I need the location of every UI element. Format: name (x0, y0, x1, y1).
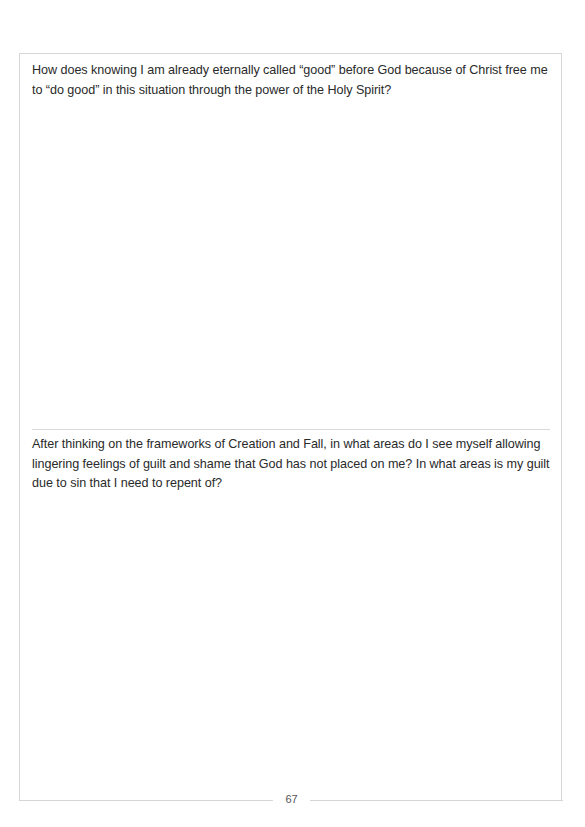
frame-bottom-right-line (310, 800, 563, 801)
frame-bottom-left-line (19, 800, 273, 801)
journal-prompt-1: How does knowing I am already eternally … (32, 61, 552, 100)
journal-prompt-2: After thinking on the frameworks of Crea… (32, 435, 552, 494)
answer-area-1[interactable] (32, 105, 550, 425)
answer-area-2[interactable] (32, 498, 550, 788)
section-divider (32, 429, 550, 430)
page-number: 67 (273, 793, 310, 805)
